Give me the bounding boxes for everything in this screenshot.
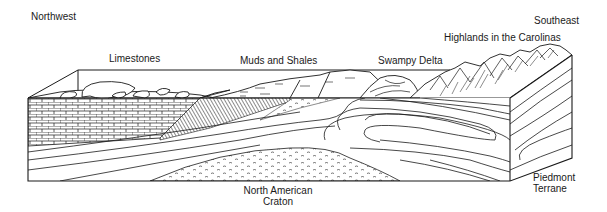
top-surface (28, 70, 418, 98)
front-face (28, 98, 510, 181)
piedmont-line-2: Terrane (533, 183, 575, 194)
label-swampy-delta: Swampy Delta (378, 55, 442, 66)
label-limestones: Limestones (109, 53, 160, 64)
label-southeast: Southeast (534, 15, 579, 26)
label-piedmont-terrane: Piedmont Terrane (533, 172, 575, 194)
label-muds-and-shales: Muds and Shales (240, 55, 317, 66)
label-north-american-craton: North American Craton (238, 185, 318, 207)
craton-line-1: North American (238, 185, 318, 196)
piedmont-line-1: Piedmont (533, 172, 575, 183)
label-northwest: Northwest (31, 11, 76, 22)
craton-line-2: Craton (238, 196, 318, 207)
geologic-block-diagram: Northwest Southeast Limestones Muds and … (0, 0, 607, 212)
label-highlands: Highlands in the Carolinas (444, 32, 561, 43)
